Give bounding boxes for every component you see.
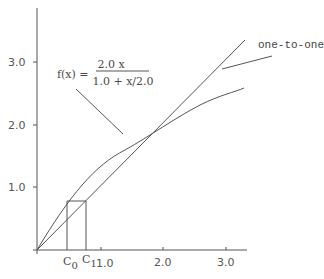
formula-numerator: 2.0 x [97, 58, 125, 71]
c1-label: C1 [82, 253, 97, 269]
c0-label: C0 [63, 255, 78, 271]
x-tick-label-3: 3.0 [217, 256, 235, 269]
x-tick-label-2: 2.0 [154, 256, 172, 269]
formula-denominator: 1.0 + x/2.0 [92, 75, 153, 88]
cobweb-figure: 3.0 2.0 1.0 1.0 2.0 3.0 C0 C1 f(x) = 2.0… [0, 0, 324, 279]
cobweb-rectangle [67, 201, 86, 250]
formula-leader-line [76, 89, 123, 134]
y-tick-label-1: 1.0 [8, 181, 26, 194]
one-to-one-leader-line [222, 56, 272, 69]
f-curve [37, 88, 244, 250]
formula-lhs: f(x) = [57, 68, 89, 81]
y-tick-label-3: 3.0 [8, 56, 26, 69]
one-to-one-label: one-to-one [258, 39, 324, 51]
y-tick-label-2: 2.0 [8, 119, 26, 132]
x-tick-label-1: 1.0 [96, 257, 114, 270]
